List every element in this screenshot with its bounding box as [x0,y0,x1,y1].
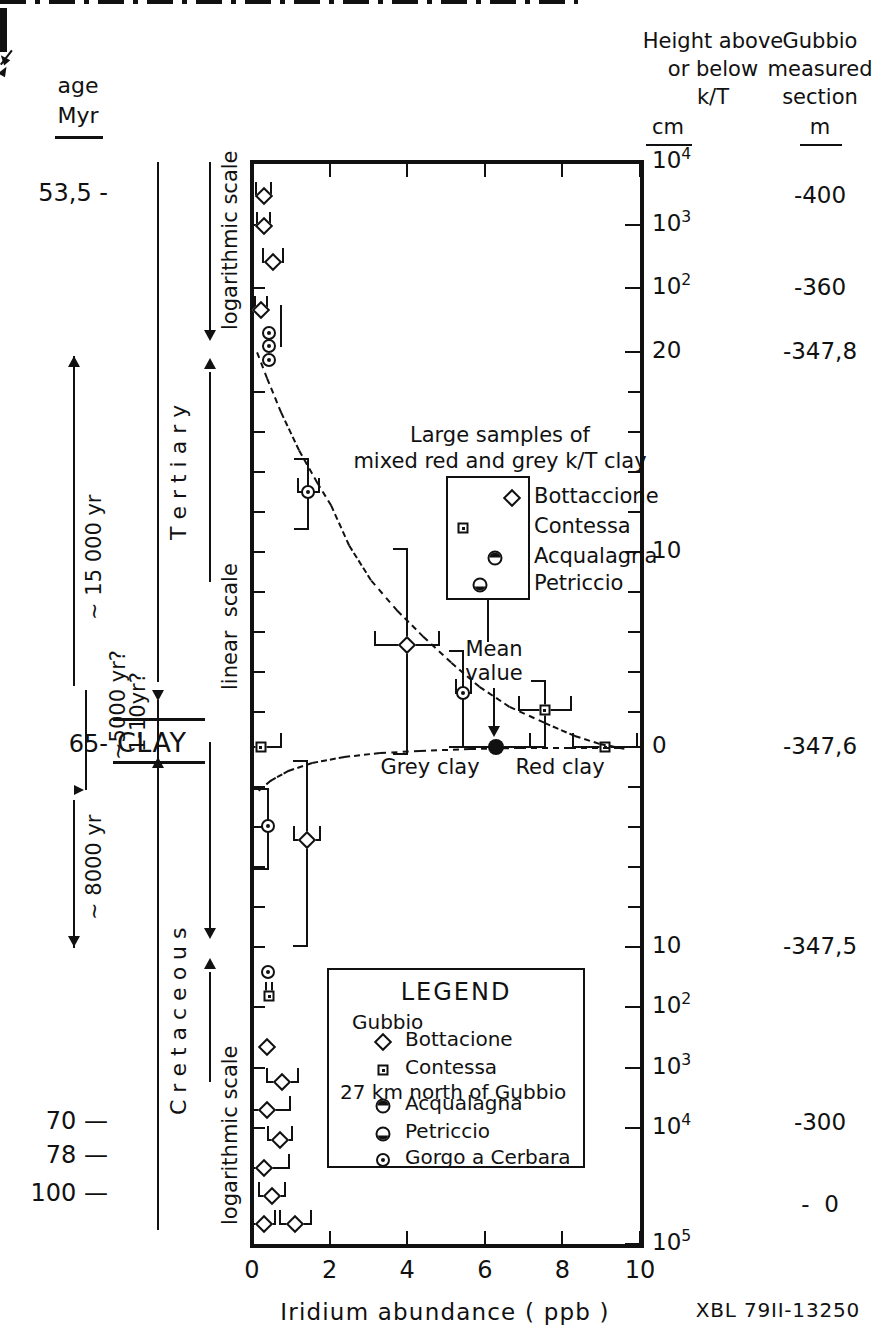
legend-title: LEGEND [401,980,512,1006]
ytick-left-2 [254,391,265,393]
xtick-top-6 [484,164,486,177]
header-section-line1: Gubbio [783,30,858,53]
error-cap-left [279,1210,281,1224]
error-cap-top [294,458,308,460]
height-axis-label-18: 10 [652,933,681,958]
data-point-gorgo-2 [262,339,276,353]
ytick-right-19 [625,1006,640,1008]
ytick-left-8 [254,631,265,633]
inset-leader-line [487,600,489,642]
trend-curve-upper-4 [316,482,332,506]
xtick-top-2 [329,164,331,177]
xtick-label-4: 4 [400,1258,415,1284]
section-tick-0: -400 [794,183,846,208]
height-axis-label-21: 104 [652,1114,691,1139]
error-cap-left [297,478,299,492]
measure-tertiary-arrow-up [68,356,80,367]
figure-root: 0246810Iridium abundance ( ppb )10410310… [0,0,885,1340]
data-point-contessa-1 [539,705,550,716]
inset-marker-circ-bot [473,578,488,593]
xtick-label-10: 10 [625,1258,656,1284]
header-age-rule [55,136,103,139]
ytick-right-7 [628,511,640,513]
trend-curve-upper-5 [330,505,350,546]
header-age-line1: age [58,74,99,98]
ytick-left-7 [254,591,265,593]
ytick-right-21 [625,1127,640,1129]
duration-1-10yr: 1-10yr? [128,672,149,752]
section-tick-1: -360 [794,275,846,300]
header-section-line3: section [782,86,858,109]
section-tick-5: -300 [794,1110,846,1135]
trend-curve-upper-2 [280,412,300,451]
scale-arrow-up-log-lower [204,958,216,969]
ytick-right-4 [628,391,640,393]
xtick-label-8: 8 [555,1258,570,1284]
error-cap-top [393,548,407,550]
error-cap-right [297,1068,299,1082]
ytick-right-17 [628,906,640,908]
trend-curve-lower-2 [288,762,313,772]
measure-cretaceous-arrow-down [68,936,80,947]
trend-curve-upper-8 [397,610,424,637]
data-point-bottacione-11 [254,1215,272,1233]
data-point-bottacione-10 [263,1187,281,1205]
scale-line-linear-a [209,372,211,582]
tertiary-axis-line [157,162,159,682]
data-point-gorgo-1 [262,326,276,340]
tertiary-arrow-down [152,690,164,701]
xtick-top-4 [406,164,408,177]
trend-curve-upper-1 [266,378,282,413]
data-point-bottacione-5 [258,1038,276,1056]
ytick-right-10 [628,631,640,633]
inset-label-1: Contessa [534,515,631,538]
clay-bracket-vertical [85,690,87,790]
scale-label-linear: linear scale [220,563,241,690]
period-label-cretaceous: C r e t a c e o u s [168,928,190,1115]
data-point-gorgo-4 [301,485,315,499]
header-height-unit: cm [652,116,684,139]
ytick-right-2 [625,287,640,289]
trend-curve-lower-4 [344,752,380,758]
error-cap-bottom [293,945,307,947]
scale-line-linear-b [209,742,211,932]
data-point-contessa-2 [264,991,275,1002]
error-cap-top [449,650,463,652]
height-axis-label-0: 104 [652,148,691,173]
xtick-label-6: 6 [477,1258,492,1284]
error-cap-bottom [294,528,308,530]
error-cap-right [636,733,638,747]
age-tick-0: 53,5 - [38,181,108,207]
legend-item-label-3: Petriccio [405,1121,490,1143]
error-cap-top [293,760,307,762]
red-clay-arrow-head [0,65,10,78]
measure-cretaceous-line [73,800,75,948]
inset-title-line1: Large samples of [410,424,590,447]
error-cap-left [293,826,295,840]
ytick-left-16 [254,946,265,948]
ytick-left-10 [254,711,265,713]
inset-label-3: Petriccio [534,572,623,595]
scale-label-log-lower: logarithmic scale [220,1045,241,1225]
xtick-bottom-8 [561,1231,563,1244]
header-height-line1: Height above [643,30,784,53]
inset-marker-circ-top [488,551,503,566]
ytick-right-20 [625,1067,640,1069]
xtick-label-0: 0 [244,1258,259,1284]
height-axis-label-13: 0 [652,733,667,758]
error-cap-right [319,826,321,840]
error-cap-left [266,1068,268,1082]
error-cap-right [438,631,440,645]
inset-marker-square-dot [458,523,469,534]
data-point-bottacione-peak [398,636,416,654]
inset-label-0: Bottaccione [534,485,659,508]
ytick-left-19 [254,1127,265,1129]
xtick-bottom-4 [406,1231,408,1244]
scale-line-log-lower-a [209,972,211,1082]
x-axis-title: Iridium abundance ( ppb ) [280,1300,610,1325]
data-point-gorgo-7 [261,965,275,979]
ytick-right-16 [628,866,640,868]
trend-curve-lower-8 [520,747,570,749]
measure-tertiary-line [73,356,75,686]
section-tick-4: -347,5 [783,934,857,959]
